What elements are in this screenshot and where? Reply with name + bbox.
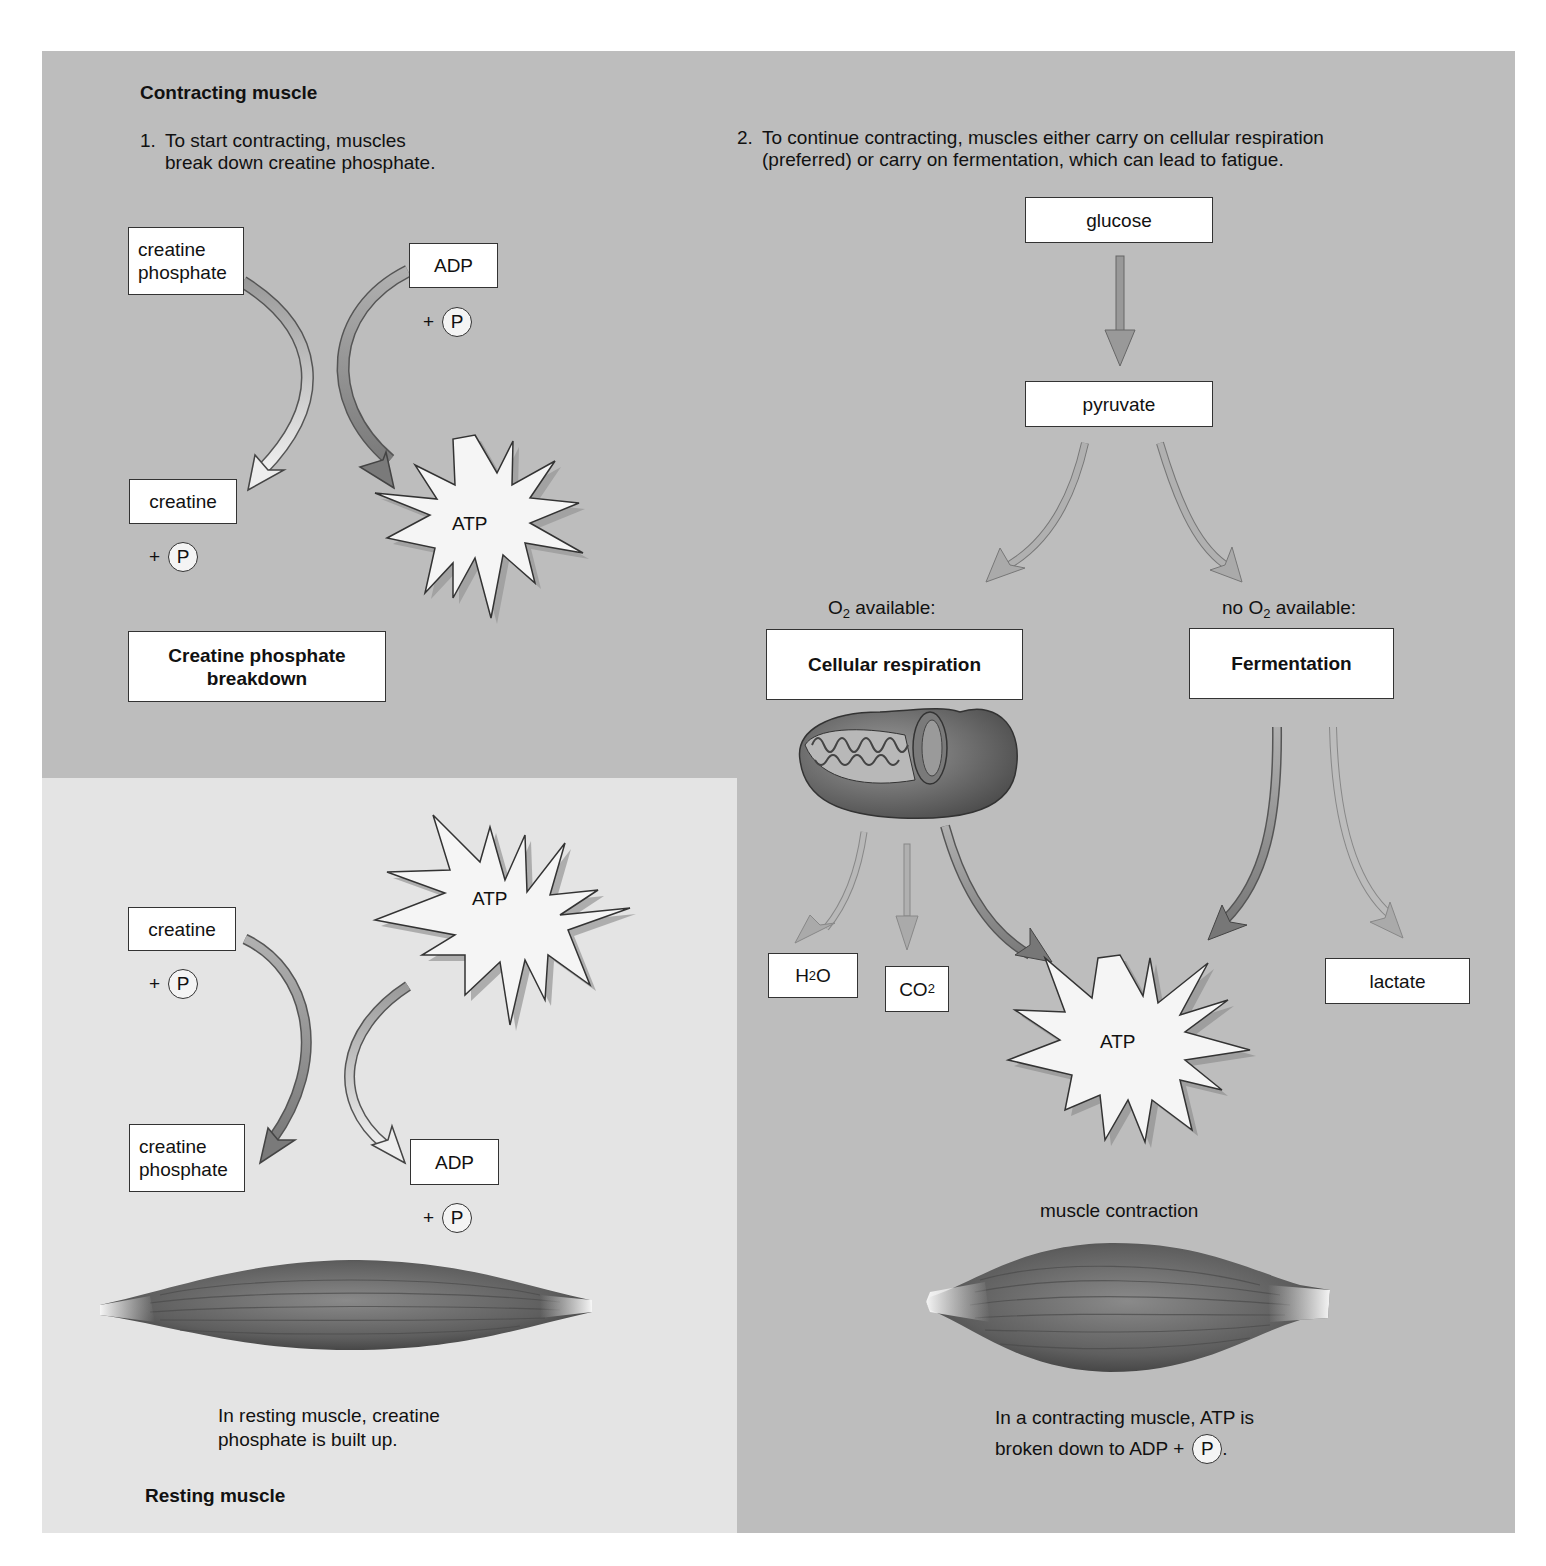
- contracting-caption: In a contracting muscle, ATP is broken d…: [995, 1406, 1254, 1464]
- arrow-creatine-phosphate-to-creatine: [243, 282, 307, 490]
- phosphate-circle: P: [442, 307, 472, 337]
- cellular-respiration-box: Cellular respiration: [766, 629, 1023, 700]
- creatine-phosphate-box: creatine phosphate: [128, 227, 244, 295]
- box-line-2: phosphate: [138, 261, 227, 284]
- resting-caption: In resting muscle, creatine phosphate is…: [218, 1404, 440, 1452]
- resting-muscle-illustration: [100, 1260, 592, 1350]
- glucose-box: glucose: [1025, 197, 1213, 243]
- box-line-1: Creatine phosphate: [168, 644, 345, 667]
- plus-sign: +: [423, 311, 434, 333]
- resting-creatine-phosphate-box: creatine phosphate: [129, 1124, 245, 1192]
- creatine-phosphate-breakdown-box: Creatine phosphate breakdown: [128, 631, 386, 702]
- plus-phosphate: + P: [423, 307, 472, 337]
- caption-text: broken down to ADP +: [995, 1437, 1184, 1461]
- subscript: 2: [843, 606, 850, 621]
- arrow-to-h2o: [795, 832, 864, 943]
- box-line-2: phosphate: [139, 1158, 228, 1181]
- step-2-number: 2.: [737, 126, 753, 149]
- o2-text: O: [828, 597, 843, 618]
- box-line-2: breakdown: [207, 667, 307, 690]
- atp-label: ATP: [472, 888, 508, 910]
- fermentation-box: Fermentation: [1189, 628, 1394, 699]
- step-2-text: 2. To continue contracting, muscles eith…: [737, 126, 1457, 172]
- plus-phosphate: + P: [149, 969, 198, 999]
- phosphate-circle: P: [168, 542, 198, 572]
- atp-star-resting: [375, 815, 636, 1031]
- arrow-fermentation-to-lactate: [1333, 727, 1403, 938]
- arrow-atp-to-adp: [350, 986, 408, 1163]
- h2o-box: H2O: [768, 953, 858, 998]
- phosphate-circle: P: [168, 969, 198, 999]
- co2-box: CO2: [885, 966, 949, 1012]
- o2-available-label: O2 available:: [828, 597, 936, 619]
- available-text: available:: [850, 597, 936, 618]
- arrow-respiration-to-atp: [945, 826, 1052, 962]
- step-2-line-1: To continue contracting, muscles either …: [762, 126, 1324, 149]
- resting-muscle-title: Resting muscle: [145, 1485, 285, 1507]
- adp-box: ADP: [409, 243, 498, 288]
- o-text: O: [816, 964, 831, 987]
- arrow-to-co2: [896, 844, 918, 950]
- step-1-number: 1.: [140, 129, 156, 152]
- step-1-line-2: break down creatine phosphate.: [165, 151, 435, 174]
- step-1-line-1: To start contracting, muscles: [165, 129, 406, 152]
- resting-adp-box: ADP: [410, 1139, 499, 1185]
- box-line-1: creatine: [139, 1135, 207, 1158]
- co-text: CO: [899, 978, 928, 1001]
- caption-line-2: broken down to ADP + P .: [995, 1434, 1254, 1464]
- h-text: H: [795, 964, 809, 987]
- step-1-text: 1. To start contracting, muscles break d…: [140, 129, 540, 175]
- caption-line-2: phosphate is built up.: [218, 1428, 440, 1452]
- box-line-1: creatine: [138, 238, 206, 261]
- plus-sign: +: [149, 973, 160, 995]
- resting-creatine-box: creatine: [128, 907, 236, 951]
- contracting-muscle-title: Contracting muscle: [140, 82, 317, 104]
- caption-line-1: In a contracting muscle, ATP is: [995, 1406, 1254, 1430]
- muscle-contraction-label: muscle contraction: [1040, 1200, 1198, 1222]
- phosphate-circle: P: [1192, 1434, 1222, 1464]
- no-o2-available-label: no O2 available:: [1222, 597, 1356, 619]
- plus-phosphate: + P: [423, 1203, 472, 1233]
- step-2-line-2: (preferred) or carry on fermentation, wh…: [762, 148, 1284, 171]
- plus-sign: +: [423, 1207, 434, 1229]
- period: .: [1222, 1437, 1227, 1461]
- arrow-glucose-to-pyruvate: [1105, 256, 1135, 366]
- available-text: available:: [1270, 597, 1356, 618]
- arrow-adp-to-atp: [343, 271, 408, 488]
- atp-label: ATP: [452, 513, 488, 535]
- pyruvate-box: pyruvate: [1025, 381, 1213, 427]
- arrow-creatine-to-creatine-phosphate: [245, 939, 306, 1163]
- phosphate-circle: P: [442, 1203, 472, 1233]
- plus-phosphate: + P: [149, 542, 198, 572]
- mitochondrion-illustration: [800, 709, 1018, 819]
- lactate-box: lactate: [1325, 958, 1470, 1004]
- arrow-fermentation-to-atp: [1208, 727, 1277, 940]
- atp-label: ATP: [1100, 1031, 1136, 1053]
- plus-sign: +: [149, 546, 160, 568]
- contracting-muscle-illustration: [926, 1243, 1330, 1372]
- no-o2-text: no O: [1222, 597, 1263, 618]
- caption-line-1: In resting muscle, creatine: [218, 1404, 440, 1428]
- creatine-box: creatine: [129, 479, 237, 524]
- arrow-pyruvate-to-respiration: [986, 443, 1085, 582]
